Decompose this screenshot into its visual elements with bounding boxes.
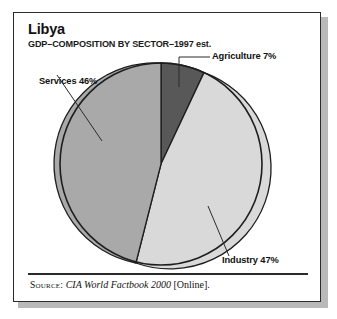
source-publication: CIA World Factbook 2000 <box>66 279 171 290</box>
figure-root: Libya GDP–COMPOSITION BY SECTOR–1997 est… <box>0 0 337 319</box>
source-suffix: [Online]. <box>173 279 209 290</box>
source-divider <box>28 273 308 275</box>
slice-label-industry: Industry 47% <box>222 255 279 265</box>
source-keyword: Source: <box>30 279 63 290</box>
slice-label-services: Services 46% <box>39 76 97 86</box>
source-line: Source: CIA World Factbook 2000 [Online]… <box>30 279 210 290</box>
slice-label-agriculture: Agriculture 7% <box>212 51 276 61</box>
figure-frame: Libya GDP–COMPOSITION BY SECTOR–1997 est… <box>13 12 321 302</box>
